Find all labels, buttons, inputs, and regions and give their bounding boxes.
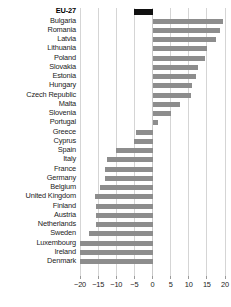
bar-romania [153,28,220,33]
bar-lithuania [153,46,207,51]
category-label-greece: Greece [0,127,76,136]
category-label-czech-republic: Czech Republic [0,90,76,99]
category-label-romania: Romania [0,25,76,34]
category-label-cyprus: Cyprus [0,136,76,145]
bar-eu-27 [134,9,152,15]
x-tick-label: −20 [74,280,86,289]
category-label-italy: Italy [0,154,76,163]
category-label-portugal: Portugal [0,117,76,126]
plot-area [80,0,225,276]
x-tick-mark [98,276,99,279]
category-label-latvia: Latvia [0,34,76,43]
category-label-estonia: Estonia [0,71,76,80]
bar-hungary [153,83,193,88]
bar-netherlands [96,222,152,227]
bar-portugal [153,120,158,125]
bar-luxembourg [80,241,153,246]
x-tick-mark [152,276,153,279]
bar-austria [96,213,152,218]
bar-germany [105,176,152,181]
category-label-germany: Germany [0,173,76,182]
category-label-lithuania: Lithuania [0,43,76,52]
x-tick-mark [206,276,207,279]
bar-italy [107,157,152,162]
bar-ireland [80,250,153,255]
bar-cyprus [134,139,152,144]
x-tick-label: 15 [203,280,211,289]
bar-czech-republic [153,93,191,98]
x-tick-label: 10 [185,280,193,289]
bar-greece [136,130,152,135]
x-tick-label: 0 [151,280,155,289]
x-tick-mark [188,276,189,279]
category-label-france: France [0,164,76,173]
bar-poland [153,56,206,61]
gridline [80,8,81,276]
bar-latvia [153,37,216,42]
category-label-ireland: Ireland [0,247,76,256]
bar-finland [96,204,152,209]
x-tick-mark [170,276,171,279]
bar-france [105,167,152,172]
category-label-luxembourg: Luxembourg [0,238,76,247]
x-tick-label: −5 [130,280,138,289]
category-label-eu-27: EU-27 [0,6,76,15]
category-label-poland: Poland [0,53,76,62]
category-label-united-kingdom: United Kingdom [0,191,76,200]
bar-spain [116,148,152,153]
x-tick-mark [134,276,135,279]
bar-slovakia [153,65,198,70]
bar-malta [153,102,180,107]
bar-slovenia [153,111,171,116]
bar-united-kingdom [95,194,153,199]
category-label-slovakia: Slovakia [0,62,76,71]
bar-estonia [153,74,197,79]
bar-chart: EU-27BulgariaRomaniaLatviaLithuaniaPolan… [0,0,231,307]
bar-bulgaria [153,19,224,24]
category-label-bulgaria: Bulgaria [0,16,76,25]
x-tick-label: −15 [92,280,104,289]
category-label-austria: Austria [0,210,76,219]
category-label-malta: Malta [0,99,76,108]
bar-belgium [100,185,153,190]
category-label-hungary: Hungary [0,80,76,89]
bar-denmark [80,259,153,264]
category-label-spain: Spain [0,145,76,154]
category-label-finland: Finland [0,201,76,210]
x-axis: −20−15−10−505101520 [80,276,225,307]
gridline [225,8,226,276]
x-tick-mark [80,276,81,279]
category-label-sweden: Sweden [0,228,76,237]
category-label-netherlands: Netherlands [0,219,76,228]
x-tick-label: 20 [221,280,229,289]
bar-sweden [89,231,152,236]
x-tick-label: −10 [110,280,122,289]
x-tick-mark [225,276,226,279]
x-tick-label: 5 [169,280,173,289]
category-label-slovenia: Slovenia [0,108,76,117]
category-label-belgium: Belgium [0,182,76,191]
category-label-column: EU-27BulgariaRomaniaLatviaLithuaniaPolan… [0,0,78,276]
x-tick-mark [116,276,117,279]
category-label-denmark: Denmark [0,256,76,265]
